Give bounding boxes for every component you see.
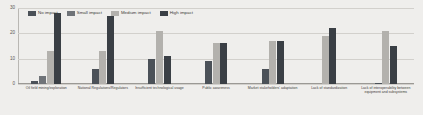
bar-chart: 0102030 Oil field mining/explorationNati… xyxy=(0,0,423,115)
bar-group xyxy=(301,8,358,84)
legend-label: Medium impact xyxy=(121,11,151,15)
bar xyxy=(99,51,106,84)
bar xyxy=(148,59,155,84)
x-axis-label: Insufficient technological usage xyxy=(131,86,188,115)
legend-label: No impact xyxy=(38,11,58,15)
bar xyxy=(39,76,46,84)
bar xyxy=(54,13,61,84)
legend-swatch-icon xyxy=(28,11,36,16)
y-axis-tick-label: 10 xyxy=(10,56,15,61)
bar xyxy=(92,69,99,84)
x-axis-label: Lack of standardization xyxy=(301,86,358,115)
legend-item[interactable]: High impact xyxy=(160,11,193,16)
legend-item[interactable]: No impact xyxy=(28,11,58,16)
gridline xyxy=(18,84,414,85)
bar xyxy=(156,31,163,84)
legend-item[interactable]: Medium impact xyxy=(111,11,151,16)
bar-group xyxy=(357,8,414,84)
y-axis-tick-label: 30 xyxy=(10,6,15,11)
x-axis-label: National Regulations/Regulators xyxy=(75,86,132,115)
bar-groups xyxy=(18,8,414,84)
bar-group xyxy=(188,8,245,84)
bar xyxy=(47,51,54,84)
bar xyxy=(107,16,114,84)
bar xyxy=(329,28,336,84)
bar-group xyxy=(75,8,132,84)
x-axis-label: Market stakeholders' adaptation xyxy=(244,86,301,115)
bar-group xyxy=(131,8,188,84)
bar xyxy=(375,83,382,84)
bar xyxy=(205,61,212,84)
legend-swatch-icon xyxy=(111,11,119,16)
legend-swatch-icon xyxy=(160,11,168,16)
bar xyxy=(322,36,329,84)
bar xyxy=(390,46,397,84)
chart-legend: No impactSmall impactMedium impactHigh i… xyxy=(28,11,193,16)
bar-group xyxy=(18,8,75,84)
legend-item[interactable]: Small impact xyxy=(67,11,102,16)
legend-swatch-icon xyxy=(67,11,75,16)
y-axis-tick-label: 20 xyxy=(10,31,15,36)
bar xyxy=(269,41,276,84)
bar xyxy=(262,69,269,84)
x-axis-label: Oil field mining/exploration xyxy=(18,86,75,115)
bar-group xyxy=(244,8,301,84)
legend-label: Small impact xyxy=(77,11,102,15)
bar xyxy=(164,56,171,84)
bar xyxy=(382,31,389,84)
bar xyxy=(213,43,220,84)
legend-label: High impact xyxy=(170,11,193,15)
x-axis-label: Public awareness xyxy=(188,86,245,115)
bar xyxy=(277,41,284,84)
x-axis-labels: Oil field mining/explorationNational Reg… xyxy=(18,86,414,115)
bar xyxy=(31,81,38,84)
x-axis-label: Lack of interoperability between equipme… xyxy=(357,86,414,115)
bar xyxy=(220,43,227,84)
plot-area: 0102030 xyxy=(18,8,414,84)
y-axis-tick-label: 0 xyxy=(12,82,15,87)
